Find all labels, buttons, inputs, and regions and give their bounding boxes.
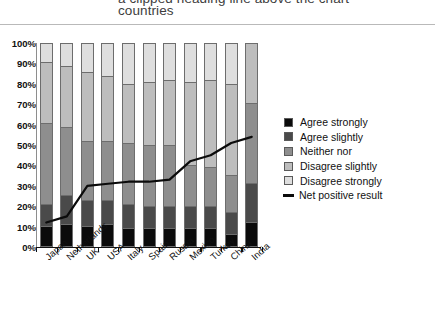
y-axis-labels: 0%10%20%30%40%50%60%70%80%90%100%: [0, 26, 36, 266]
y-axis-tick: [31, 186, 36, 187]
legend-item-label: Agree strongly: [300, 116, 368, 128]
legend-swatch-icon: [284, 147, 293, 156]
x-axis-tick: [36, 247, 37, 252]
y-axis-tick: [31, 145, 36, 146]
legend-item[interactable]: Agree slightly: [284, 130, 435, 145]
legend-swatch-icon: [284, 176, 293, 185]
chart-title-area: a clipped heading line above the chart c…: [0, 0, 435, 22]
y-axis-tick: [31, 227, 36, 228]
legend-line-marker: [283, 194, 294, 197]
legend-swatch-icon: [284, 132, 293, 141]
legend-item-label: Agree slightly: [300, 131, 363, 143]
legend-swatch-icon: [284, 162, 293, 171]
legend-item-label: Neither nor: [300, 145, 352, 157]
y-axis-tick: [31, 165, 36, 166]
x-axis-tick: [118, 247, 119, 252]
net-positive-result-line: [36, 43, 262, 247]
x-axis-tick: [139, 247, 140, 252]
legend-item[interactable]: Disagree strongly: [284, 173, 435, 188]
legend-item-label: Net positive result: [299, 189, 382, 201]
legend-item[interactable]: Disagree slightly: [284, 159, 435, 174]
y-axis-tick: [31, 125, 36, 126]
x-axis-tick: [221, 247, 222, 252]
chart-title-line-2: countries: [118, 3, 174, 18]
x-axis-tick: [159, 247, 160, 252]
x-axis-tick: [180, 247, 181, 252]
legend-item[interactable]: Net positive result: [284, 188, 435, 203]
chart-legend: Agree stronglyAgree slightlyNeither norD…: [284, 115, 435, 203]
y-axis-tick: [31, 84, 36, 85]
y-axis-tick: [31, 43, 36, 44]
x-axis-tick: [77, 247, 78, 252]
legend-item-label: Disagree slightly: [300, 160, 377, 172]
x-axis-tick: [262, 247, 263, 252]
title-divider: [0, 24, 435, 25]
x-axis-tick: [200, 247, 201, 252]
x-axis-tick: [57, 247, 58, 252]
legend-item-label: Disagree strongly: [300, 175, 382, 187]
y-axis-tick: [31, 104, 36, 105]
legend-item[interactable]: Neither nor: [284, 144, 435, 159]
legend-item[interactable]: Agree strongly: [284, 115, 435, 130]
x-axis-tick: [241, 247, 242, 252]
x-axis-tick: [98, 247, 99, 252]
y-axis-tick: [31, 63, 36, 64]
y-axis-tick: [31, 206, 36, 207]
legend-swatch-icon: [284, 118, 293, 127]
